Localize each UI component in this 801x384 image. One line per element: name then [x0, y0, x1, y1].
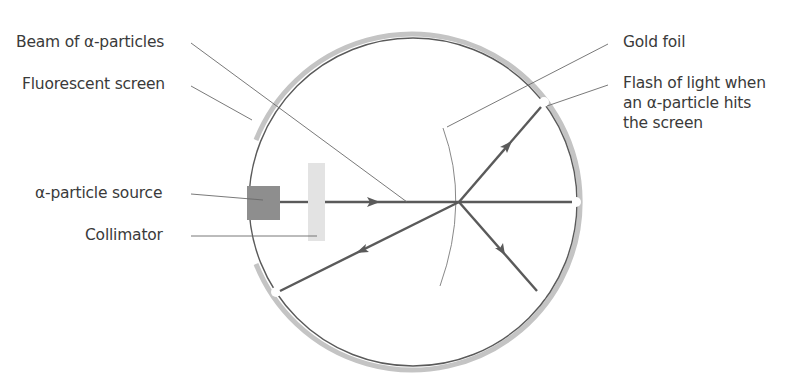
label-flash-of-light-line1: Flash of light when [623, 74, 766, 93]
ray-arrowheads [356, 141, 512, 255]
label-gold-foil: Gold foil [623, 33, 685, 52]
collimator-block [308, 163, 325, 241]
label-flash-of-light-line3: the screen [623, 114, 703, 133]
label-fluorescent-screen: Fluorescent screen [22, 75, 165, 94]
alpha-source-block [247, 186, 280, 220]
label-flash-of-light-line2: an α-particle hits [623, 94, 751, 113]
label-alpha-particle-source: α-particle source [35, 184, 162, 203]
label-beam-of-alpha-particles: Beam of α-particles [16, 33, 164, 52]
label-collimator: Collimator [85, 226, 163, 245]
